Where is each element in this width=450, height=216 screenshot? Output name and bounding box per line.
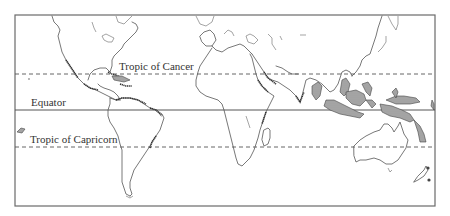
north-america	[52, 16, 138, 100]
europe	[196, 16, 306, 54]
tropic-of-cancer-label: Tropic of Cancer	[119, 60, 194, 72]
africa	[196, 48, 274, 166]
south-america	[108, 98, 164, 198]
pacific-island	[17, 128, 25, 133]
hawaii-dot	[28, 78, 29, 79]
island-dot	[427, 178, 430, 181]
island-dot	[426, 166, 429, 169]
equator-label: Equator	[31, 96, 66, 108]
tropic-of-capricorn-label: Tropic of Capricorn	[30, 133, 118, 145]
asia	[252, 16, 398, 102]
world-map: Tropic of Cancer Equator Tropic of Capri…	[0, 0, 450, 216]
